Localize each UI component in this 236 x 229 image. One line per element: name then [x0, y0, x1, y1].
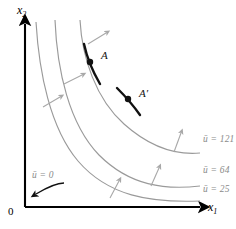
- gradient-arrow-64-lower: [151, 168, 159, 186]
- gradient-arrow-121-upper: [88, 33, 106, 44]
- figure-canvas: [0, 0, 236, 229]
- x-axis-label-sub: 1: [213, 207, 217, 216]
- utility-zero-label: ū = 0: [32, 171, 54, 181]
- utility-zero-arrow: [36, 183, 64, 194]
- gradient-arrow-121-lower: [174, 133, 181, 152]
- y-axis-label: x2: [17, 4, 26, 19]
- gradient-arrow-25-upper: [43, 97, 60, 107]
- curve-label-121: ū = 121: [203, 135, 235, 145]
- curve-label-25: ū = 25: [203, 185, 230, 195]
- curve-path-25: [36, 22, 200, 201]
- indifference-curve-figure: x2 x1 0 A A′ ū = 121 ū = 64 ū = 25 ū = 0: [0, 0, 236, 229]
- x-axis-label: x1: [208, 201, 217, 216]
- point-label-A: A: [101, 50, 108, 61]
- indifference-curve-25: [36, 22, 200, 201]
- tangent-line-A: [84, 44, 100, 84]
- tangent-line-A-prime: [117, 88, 140, 115]
- origin-label: 0: [8, 206, 14, 217]
- indifference-curve-64: [55, 20, 200, 187]
- point-marker-A: [87, 59, 93, 65]
- curve-path-64: [55, 20, 200, 187]
- gradient-arrow-64-upper: [64, 75, 82, 84]
- curve-label-64: ū = 64: [203, 166, 230, 176]
- point-marker-A-prime: [125, 96, 131, 102]
- y-axis-label-sub: 2: [22, 10, 26, 19]
- utility-zero-arrow-path: [36, 183, 64, 194]
- point-label-A-prime: A′: [139, 88, 148, 99]
